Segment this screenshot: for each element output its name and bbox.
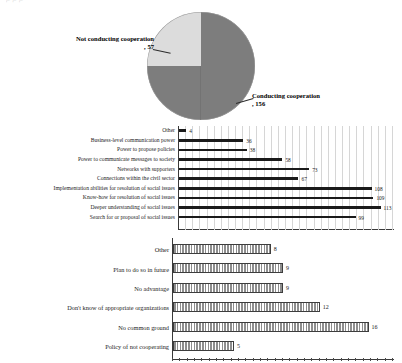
bar-row: Implementation abilities for resolution … bbox=[178, 184, 394, 194]
pie-label-conducting-line1: Conducting cooperation bbox=[252, 92, 320, 99]
axis-tick bbox=[304, 358, 305, 361]
bar-category-label: Policy of not cooperating bbox=[105, 343, 169, 350]
bar-row: Other4 bbox=[178, 126, 394, 136]
bar bbox=[173, 244, 271, 254]
bar bbox=[173, 322, 369, 332]
axis-tick bbox=[238, 358, 239, 361]
bar-row: Deeper understanding of social issues113 bbox=[178, 203, 394, 213]
bar bbox=[179, 187, 372, 190]
axis-tick bbox=[223, 358, 224, 361]
axis-tick bbox=[355, 358, 356, 361]
cut-off-header-text: ⌐ ⌐ ⌐ bbox=[6, 0, 236, 7]
bar bbox=[179, 139, 243, 142]
bar-value-label: 12 bbox=[323, 304, 329, 310]
axis-tick bbox=[341, 358, 342, 361]
bar-category-label: Power to communicate messages to society bbox=[78, 156, 175, 163]
axis-tick bbox=[231, 358, 232, 361]
bar-row: Power to communicate messages to society… bbox=[178, 155, 394, 165]
bar-row: Know-how for resolution of social issues… bbox=[178, 193, 394, 203]
bar-category-label: Other bbox=[162, 127, 175, 134]
bar-row: No advantage9 bbox=[172, 279, 394, 298]
axis-tick bbox=[179, 358, 180, 361]
bar-category-label: Implementation abilities for resolution … bbox=[54, 185, 175, 192]
bar-category-label: Business-level communication power bbox=[91, 137, 175, 144]
axis-tick bbox=[370, 358, 371, 361]
axis-tick bbox=[385, 358, 386, 361]
bar-value-label: 36 bbox=[246, 138, 251, 144]
bar-value-label: 9 bbox=[286, 285, 289, 291]
bar bbox=[179, 149, 247, 152]
bar-category-label: Search for or proposal of social issues bbox=[90, 214, 175, 221]
figure-page: ⌐ ⌐ ⌐ Not conducting cooperation , 57 Co… bbox=[0, 0, 402, 363]
plot-area-mid: Other4Business-level communication power… bbox=[178, 126, 394, 230]
bar-value-label: 108 bbox=[375, 186, 383, 192]
axis-tick bbox=[260, 358, 261, 361]
bar-row: Connections within the civil sector67 bbox=[178, 174, 394, 184]
bar-value-label: 38 bbox=[250, 147, 255, 153]
axis-tick bbox=[275, 358, 276, 361]
pie-chart: Not conducting cooperation , 57 Conducti… bbox=[0, 8, 402, 124]
axis-tick bbox=[348, 358, 349, 361]
axis-tick bbox=[216, 358, 217, 361]
bar bbox=[179, 197, 373, 200]
axis-tick bbox=[333, 358, 334, 361]
axis-tick bbox=[209, 358, 210, 361]
bar-row: Networks with supporters73 bbox=[178, 164, 394, 174]
bar-value-label: 9 bbox=[286, 265, 289, 271]
bar-row: No common ground16 bbox=[172, 318, 394, 337]
bar-category-label: Power to propose policies bbox=[117, 146, 175, 153]
pie-label-not-conducting-line1: Not conducting cooperation bbox=[76, 35, 154, 42]
bar-row: Search for or proposal of social issues9… bbox=[178, 212, 394, 222]
axis-tick bbox=[289, 358, 290, 361]
pie-label-not-conducting: Not conducting cooperation , 57 bbox=[62, 35, 154, 51]
bar-value-label: 113 bbox=[384, 205, 392, 211]
bar bbox=[179, 206, 381, 209]
bar-row: Policy of not cooperating5 bbox=[172, 337, 394, 356]
bar-value-label: 109 bbox=[376, 195, 384, 201]
bar-category-label: No common ground bbox=[118, 324, 169, 331]
pie-label-conducting: Conducting cooperation , 156 bbox=[252, 92, 392, 108]
pie-slices bbox=[147, 12, 255, 120]
axis-tick bbox=[187, 358, 188, 361]
bar-value-label: 67 bbox=[301, 176, 306, 182]
bar-category-label: Deeper understanding of social issues bbox=[90, 204, 175, 211]
bar-row: Plan to do so in future9 bbox=[172, 259, 394, 278]
axis-tick bbox=[172, 358, 173, 361]
axis-tick bbox=[326, 358, 327, 361]
bar-chart-reasons-not-cooperating: Other8Plan to do so in future9No advanta… bbox=[0, 238, 402, 360]
bar-category-label: No advantage bbox=[134, 285, 169, 292]
axis-tick bbox=[282, 358, 283, 361]
bar bbox=[179, 168, 309, 171]
bar-chart-cooperation-benefits: Other4Business-level communication power… bbox=[0, 126, 402, 230]
bar-value-label: 99 bbox=[359, 215, 364, 221]
bar bbox=[173, 263, 283, 273]
bar bbox=[179, 158, 282, 161]
axis-tick bbox=[267, 358, 268, 361]
bar bbox=[179, 177, 298, 180]
bar-category-label: Don't know of appropriate organizations bbox=[67, 304, 169, 311]
bar bbox=[179, 216, 356, 219]
axis-tick bbox=[319, 358, 320, 361]
axis-tick bbox=[297, 358, 298, 361]
bar bbox=[173, 302, 320, 312]
pie-value-conducting: 156 bbox=[255, 100, 265, 107]
x-axis-bot bbox=[172, 359, 394, 360]
bar-value-label: 8 bbox=[274, 246, 277, 252]
bar-category-label: Connections within the civil sector bbox=[97, 175, 175, 182]
axis-tick bbox=[392, 358, 393, 361]
bar-category-label: Know-how for resolution of social issues bbox=[83, 194, 175, 201]
bar bbox=[173, 341, 234, 351]
bar-value-label: 73 bbox=[312, 167, 317, 173]
bar-row: Other8 bbox=[172, 240, 394, 259]
axis-tick bbox=[253, 358, 254, 361]
bar bbox=[173, 283, 283, 293]
bar-category-label: Other bbox=[155, 246, 169, 253]
axis-tick bbox=[245, 358, 246, 361]
bar-category-label: Plan to do so in future bbox=[113, 266, 169, 273]
bar-value-label: 58 bbox=[285, 157, 290, 163]
axis-tick bbox=[194, 358, 195, 361]
axis-tick bbox=[363, 358, 364, 361]
axis-tick bbox=[377, 358, 378, 361]
bar-category-label: Networks with supporters bbox=[117, 166, 175, 173]
bar bbox=[179, 129, 186, 132]
